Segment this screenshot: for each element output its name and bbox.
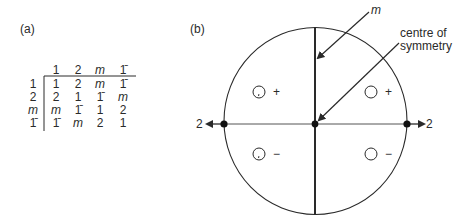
- sign-top-left: +: [273, 85, 280, 99]
- pole-circle-top-left: [253, 86, 265, 98]
- mirror-pointer-arrow: [318, 12, 369, 58]
- centre-pointer-arrow: [319, 43, 399, 120]
- pole-circle-bottom-left: [253, 148, 265, 160]
- sign-bottom-right: −: [385, 147, 392, 161]
- sign-top-right: +: [385, 85, 392, 99]
- twofold-axis-dot-left: [220, 120, 227, 127]
- pole-circle-bottom-right: [365, 148, 377, 160]
- twofold-axis-dot-right: [403, 120, 410, 127]
- diagram-canvas: + + − − m centre of symmetry 2 2: [0, 0, 467, 221]
- sign-bottom-left: −: [273, 147, 280, 161]
- centre-label-line2: symmetry: [400, 39, 452, 53]
- axis-label-right: 2: [426, 117, 433, 131]
- centre-label-line1: centre of: [400, 26, 447, 40]
- axis-label-left: 2: [196, 117, 203, 131]
- mirror-label: m: [371, 3, 381, 17]
- centre-of-symmetry-dot: [312, 121, 319, 128]
- pole-circle-top-right: [365, 86, 377, 98]
